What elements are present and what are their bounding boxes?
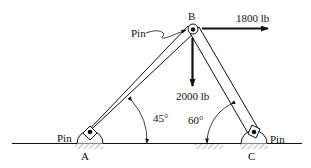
ground-hatch-c <box>240 144 268 149</box>
angle-label-45: 45° <box>153 112 168 124</box>
member-ab <box>84 26 196 135</box>
pin-joint-b <box>188 24 198 34</box>
angle-label-60: 60° <box>188 114 203 126</box>
pin-label-a: Pin <box>57 132 72 144</box>
pin-support-a <box>77 126 103 144</box>
ground-hatch-a <box>75 144 103 149</box>
node-label-b: B <box>188 10 195 22</box>
pin-label-b: Pin <box>131 27 146 39</box>
node-label-a: A <box>81 150 89 162</box>
ground-hatch-mid <box>195 144 223 149</box>
angle-arc-c <box>207 104 231 143</box>
angle-arc-a <box>132 101 147 143</box>
frame-diagram: 1800 lb 2000 lb 45° 60° B A C Pin Pin Pi… <box>0 0 311 168</box>
load-label-horizontal: 1800 lb <box>236 12 270 24</box>
node-label-c: C <box>248 150 255 162</box>
load-label-vertical: 2000 lb <box>176 90 210 102</box>
pin-label-c: Pin <box>270 133 285 145</box>
